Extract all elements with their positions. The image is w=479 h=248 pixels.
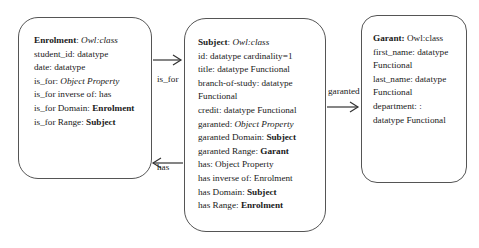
text: date: datatype	[34, 62, 85, 72]
reference-class: Subject	[86, 117, 116, 127]
edge-label-garanted: garanted	[328, 86, 360, 96]
reference-class: Subject	[247, 187, 277, 197]
class-property-line: garanted Range: Garant	[198, 145, 325, 159]
type-annotation: Owl:class	[232, 37, 269, 47]
text: garanted Domain:	[198, 132, 266, 142]
text: has inverse of: Enrolment	[198, 173, 293, 183]
class-property-line: garanted Domain: Subject	[198, 131, 325, 145]
text: has Domain:	[198, 187, 247, 197]
type-annotation: Object Property	[60, 76, 119, 86]
class-property-line: has inverse of: Enrolment	[198, 172, 325, 186]
edge-label-has: has	[157, 162, 169, 172]
text: Functional	[373, 87, 412, 97]
reference-class: Subject	[266, 132, 296, 142]
class-box-subject: Subject: Owl:classid: datatype cardinali…	[184, 18, 326, 232]
text: last_name: datatype	[373, 74, 446, 84]
class-property-line: is_for inverse of: has	[34, 88, 151, 102]
class-property-line: Functional	[373, 86, 466, 100]
text: Functional	[373, 60, 412, 70]
class-property-line: is_for Domain: Enrolment	[34, 102, 151, 116]
class-name: Garant:	[373, 33, 405, 43]
text: student_id: datatype	[34, 49, 108, 59]
class-property-line: Functional	[373, 59, 466, 73]
class-name: Subject	[198, 37, 228, 47]
text: garanted Range:	[198, 146, 260, 156]
class-property-line: id: datatype cardinality=1	[198, 50, 325, 64]
text: id: datatype cardinality=1	[198, 51, 292, 61]
text: is_for:	[34, 76, 60, 86]
class-property-line: has Range: Enrolment	[198, 199, 325, 213]
class-property-line: department: :	[373, 100, 466, 114]
class-property-line: credit: datatype Functional	[198, 104, 325, 118]
text: first_name: datatype	[373, 47, 448, 57]
text: garanted:	[198, 119, 234, 129]
text: branch-of-study: datatype	[198, 78, 293, 88]
class-property-line: is_for: Object Property	[34, 75, 151, 89]
reference-class: Enrolment	[92, 103, 134, 113]
class-title: Subject: Owl:class	[198, 36, 325, 50]
class-title: Enrolment: Owl:class	[34, 34, 151, 48]
class-box-enrolment: Enrolment: Owl:classstudent_id: datatype…	[18, 17, 152, 179]
class-box-garant: Garant: Owl:classfirst_name: datatypeFun…	[361, 15, 467, 183]
class-property-line: Functional	[198, 90, 325, 104]
text: is_for Range:	[34, 117, 86, 127]
type-annotation: Object Property	[234, 119, 293, 129]
reference-class: Enrolment	[241, 200, 283, 210]
text: datatype Functional	[373, 115, 446, 125]
class-property-line: last_name: datatype	[373, 73, 466, 87]
class-property-line: has Domain: Subject	[198, 186, 325, 200]
text: department: :	[373, 101, 422, 111]
class-property-line: date: datatype	[34, 61, 151, 75]
text: has: Object Property	[198, 159, 274, 169]
text: is_for inverse of: has	[34, 89, 111, 99]
class-property-line: student_id: datatype	[34, 48, 151, 62]
text: Owl:class	[405, 33, 444, 43]
class-property-line: datatype Functional	[373, 114, 466, 128]
class-property-line: garanted: Object Property	[198, 118, 325, 132]
edge-label-is-for: is_for	[157, 74, 178, 84]
class-property-line: is_for Range: Subject	[34, 116, 151, 130]
text: is_for Domain:	[34, 103, 92, 113]
class-title: Garant: Owl:class	[373, 32, 466, 46]
type-annotation: Owl:class	[81, 35, 118, 45]
reference-class: Garant	[260, 146, 289, 156]
class-property-line: first_name: datatype	[373, 46, 466, 60]
class-property-line: title: datatype Functional	[198, 63, 325, 77]
text: credit: datatype Functional	[198, 105, 296, 115]
class-property-line: branch-of-study: datatype	[198, 77, 325, 91]
class-property-line: has: Object Property	[198, 158, 325, 172]
text: title: datatype Functional	[198, 64, 290, 74]
class-name: Enrolment	[34, 35, 76, 45]
text: Functional	[198, 91, 237, 101]
text: has Range:	[198, 200, 241, 210]
